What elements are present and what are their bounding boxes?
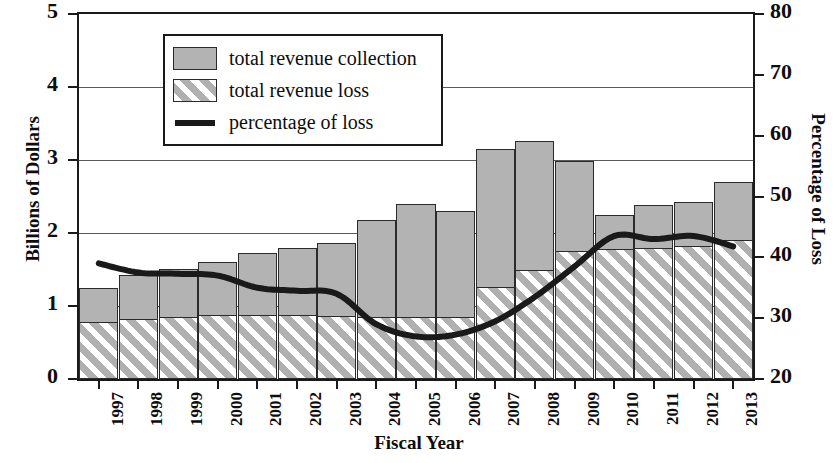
- y-axis-right-tick: [755, 378, 764, 380]
- legend-item-total-revenue-collection: total revenue collection: [173, 42, 433, 74]
- chart-legend: total revenue collection total revenue l…: [163, 34, 443, 146]
- bar-total-revenue-loss: [674, 246, 713, 379]
- bar-total-revenue-loss: [476, 287, 515, 379]
- y-axis-left-tick: [68, 86, 77, 88]
- hatched-swatch-icon: [173, 79, 217, 102]
- bar-total-revenue-loss: [317, 316, 356, 379]
- x-axis-tick-label: 2011: [663, 392, 683, 425]
- x-axis-tick-label: 2010: [623, 392, 643, 426]
- y-axis-left-tick: [68, 159, 77, 161]
- bar-total-revenue-loss: [555, 251, 594, 379]
- x-axis-tick-label: 2013: [742, 392, 762, 426]
- x-axis-tick-label: 2000: [227, 392, 247, 426]
- x-axis-tick-label: 1997: [108, 392, 128, 426]
- x-axis-tick-label: 2002: [306, 392, 326, 426]
- bar-total-revenue-loss: [159, 317, 198, 379]
- x-axis-tick: [455, 381, 457, 389]
- legend-item-percentage-of-loss: percentage of loss: [173, 106, 433, 138]
- x-axis-tick-label: 2007: [504, 392, 524, 426]
- y-axis-left-tick-label: 5: [18, 0, 58, 24]
- y-axis-right-tick-label: 60: [770, 120, 816, 146]
- y-axis-right-tick: [755, 317, 764, 319]
- bar-total-revenue-loss: [238, 315, 277, 379]
- legend-item-total-revenue-loss: total revenue loss: [173, 74, 433, 106]
- y-axis-left-tick-label: 0: [18, 363, 58, 389]
- x-axis-tick: [693, 381, 695, 389]
- x-axis-tick: [613, 381, 615, 389]
- x-axis-tick: [296, 381, 298, 389]
- y-axis-left-tick-label: 2: [18, 217, 58, 243]
- x-axis-tick-label: 2005: [425, 392, 445, 426]
- y-axis-right-tick-label: 40: [770, 241, 816, 267]
- y-axis-right-tick-label: 80: [770, 0, 816, 24]
- legend-label: total revenue loss: [229, 79, 369, 102]
- x-axis-tick: [98, 381, 100, 389]
- x-axis-tick: [336, 381, 338, 389]
- legend-label: total revenue collection: [229, 47, 417, 70]
- y-axis-left-tick-label: 4: [18, 71, 58, 97]
- bar-total-revenue-loss: [79, 322, 118, 379]
- y-axis-left-tick: [68, 13, 77, 15]
- y-axis-right-tick-label: 70: [770, 59, 816, 85]
- y-axis-right-tick: [755, 196, 764, 198]
- x-axis-tick-label: 2006: [465, 392, 485, 426]
- x-axis-tick-label: 2012: [703, 392, 723, 426]
- y-axis-left-title: Billions of Dollars: [22, 59, 44, 319]
- bar-total-revenue-loss: [714, 240, 753, 379]
- x-axis-tick: [653, 381, 655, 389]
- x-axis-tick: [137, 381, 139, 389]
- y-axis-left-tick: [68, 378, 77, 380]
- y-axis-right-tick-label: 20: [770, 363, 816, 389]
- y-axis-right-tick: [755, 13, 764, 15]
- x-axis-tick: [732, 381, 734, 389]
- x-axis-tick: [494, 381, 496, 389]
- bar-total-revenue-loss: [595, 249, 634, 379]
- bar-total-revenue-loss: [436, 317, 475, 379]
- x-axis-title: Fiscal Year: [0, 432, 838, 454]
- x-axis-tick-label: 2003: [346, 392, 366, 426]
- x-axis-tick: [534, 381, 536, 389]
- x-axis-tick-label: 2004: [385, 392, 405, 426]
- bar-total-revenue-loss: [634, 248, 673, 379]
- bar-total-revenue-loss: [396, 317, 435, 379]
- chart-figure: Billions of Dollars Percentage of Loss F…: [0, 0, 838, 463]
- y-axis-left-tick: [68, 232, 77, 234]
- bar-total-revenue-loss: [119, 319, 158, 379]
- x-axis-tick: [256, 381, 258, 389]
- x-axis-tick: [217, 381, 219, 389]
- x-axis-tick-label: 2008: [544, 392, 564, 426]
- y-axis-left-tick: [68, 305, 77, 307]
- x-axis-tick: [415, 381, 417, 389]
- line-swatch-icon: [173, 111, 217, 134]
- x-axis-tick-label: 1998: [147, 392, 167, 426]
- plot-area: total revenue collection total revenue l…: [77, 12, 755, 381]
- gridline: [79, 160, 753, 161]
- y-axis-right-tick-label: 30: [770, 302, 816, 328]
- bar-total-revenue-loss: [357, 317, 396, 379]
- x-axis-tick: [177, 381, 179, 389]
- x-axis-tick-label: 1999: [187, 392, 207, 426]
- x-axis-tick-label: 2009: [584, 392, 604, 426]
- y-axis-left-tick-label: 1: [18, 290, 58, 316]
- y-axis-right-tick-label: 50: [770, 181, 816, 207]
- bar-total-revenue-loss: [278, 315, 317, 379]
- x-axis-tick-label: 2001: [266, 392, 286, 426]
- legend-label: percentage of loss: [229, 111, 373, 134]
- y-axis-right-tick: [755, 74, 764, 76]
- x-axis-tick: [375, 381, 377, 389]
- x-axis-tick: [574, 381, 576, 389]
- y-axis-right-tick: [755, 135, 764, 137]
- bar-total-revenue-loss: [515, 270, 554, 380]
- solid-swatch-icon: [173, 47, 217, 70]
- bar-total-revenue-loss: [198, 315, 237, 379]
- y-axis-right-tick: [755, 256, 764, 258]
- y-axis-left-tick-label: 3: [18, 144, 58, 170]
